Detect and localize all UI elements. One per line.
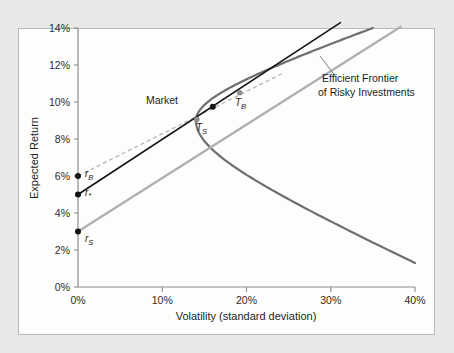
y-tick-label-1: 2% [55,244,70,256]
x-tick-label-1: 10% [152,294,173,306]
y-tick-label-4: 8% [55,133,70,145]
y-tick-label-5: 10% [49,96,70,108]
x-axis-title: Volatility (standard deviation) [176,310,317,322]
y-tick-label-7: 14% [49,22,70,34]
chart-canvas: 0%2%4%6%8%10%12%14% 0%10%20%30%40% Effic… [0,0,454,353]
series-line-2 [78,22,341,194]
market-label: Market [146,94,178,106]
figure-container: 0%2%4%6%8%10%12%14% 0%10%20%30%40% Effic… [0,0,454,353]
series-group [78,22,415,263]
market-point [210,104,216,110]
annotation-group: Efficient Frontier of Risky Investments … [85,72,415,247]
x-tick-label-2: 20% [236,294,257,306]
points-group [75,90,243,235]
x-tick-label-3: 30% [320,294,341,306]
y-tick-group: 0%2%4%6%8%10%12%14% [49,22,78,293]
axis-group [78,28,415,287]
tangency-borrow-point [237,90,243,96]
series-line-3 [78,26,402,231]
y-tick-label-0: 0% [55,281,70,293]
efficient-frontier-curve [196,28,415,263]
save-rate-label: rS [85,233,93,247]
efficient-frontier-callout-line2: of Risky Investments [318,86,415,98]
y-axis-title: Expected Return [28,117,40,199]
star-rate-intercept [75,192,81,198]
star-rate-label: r* [85,187,92,200]
y-tick-label-2: 4% [55,207,70,219]
x-tick-label-0: 0% [70,294,85,306]
save-rate-intercept [75,229,81,235]
y-tick-label-6: 12% [49,59,70,71]
borrow-rate-label: rB [85,168,93,182]
borrow-rate-intercept [75,173,81,179]
series-line-1 [78,72,284,176]
x-tick-label-4: 40% [404,294,425,306]
tangency-borrow-label: TB [235,97,246,111]
y-tick-label-3: 6% [55,170,70,182]
x-tick-group: 0%10%20%30%40% [70,287,425,306]
tangency-save-label: TS [196,122,207,136]
efficient-frontier-callout-line1: Efficient Frontier [322,72,399,84]
